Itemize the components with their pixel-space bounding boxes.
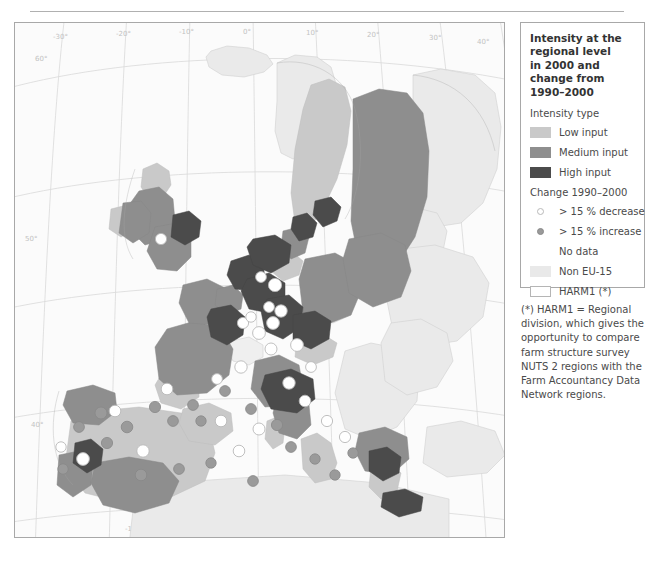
europe-map[interactable]: -30° -20° -10° 0° 10° 20° 30° 40° 60° 50…: [15, 23, 504, 537]
svg-text:60°: 60°: [35, 55, 47, 63]
legend-item-decrease: > 15 % decrease: [530, 203, 636, 220]
increase-marker-icon: [537, 228, 544, 235]
legend-title: Intensity at the regional level in 2000 …: [530, 32, 636, 99]
increase-label: > 15 % increase: [559, 226, 641, 237]
legend-item-medium-input: Medium input: [530, 144, 636, 161]
decrease-marker-cell: [530, 208, 551, 215]
svg-text:-10°: -10°: [179, 28, 194, 36]
svg-text:40°: 40°: [477, 38, 489, 46]
high-input-swatch: [530, 167, 551, 178]
svg-text:-30°: -30°: [53, 33, 68, 41]
header-divider: [30, 11, 624, 12]
svg-text:50°: 50°: [25, 235, 37, 243]
svg-text:40°: 40°: [31, 421, 43, 429]
harm1-label: HARM1 (*): [559, 286, 611, 297]
legend-item-high-input: High input: [530, 164, 636, 181]
non-eu15-label: Non EU-15: [559, 266, 612, 277]
legend-item-harm1: HARM1 (*): [530, 283, 636, 300]
non-eu15-swatch: [530, 266, 551, 277]
legend-item-low-input: Low input: [530, 124, 636, 141]
decrease-label: > 15 % decrease: [559, 206, 645, 217]
increase-marker-cell: [530, 228, 551, 235]
legend-item-no-data: No data: [530, 243, 636, 260]
map-panel[interactable]: -30° -20° -10° 0° 10° 20° 30° 40° 60° 50…: [14, 22, 505, 538]
decrease-marker-icon: [537, 208, 544, 215]
harm1-swatch: [530, 286, 551, 297]
no-data-swatch: [530, 246, 551, 257]
legend-panel: Intensity at the regional level in 2000 …: [520, 22, 645, 288]
high-input-label: High input: [559, 167, 611, 178]
change-heading: Change 1990–2000: [530, 187, 636, 198]
low-input-swatch: [530, 127, 551, 138]
medium-input-swatch: [530, 147, 551, 158]
svg-text:-20°: -20°: [116, 30, 131, 38]
legend-item-non-eu15: Non EU-15: [530, 263, 636, 280]
svg-text:30°: 30°: [429, 34, 441, 42]
no-data-label: No data: [559, 246, 598, 257]
intensity-type-heading: Intensity type: [530, 108, 636, 119]
medium-input-label: Medium input: [559, 147, 628, 158]
svg-text:20°: 20°: [367, 31, 379, 39]
legend-item-increase: > 15 % increase: [530, 223, 636, 240]
svg-text:10°: 10°: [306, 29, 318, 37]
harm1-footnote: (*) HARM1 = Regional division, which giv…: [521, 303, 651, 402]
low-input-label: Low input: [559, 127, 608, 138]
svg-text:0°: 0°: [243, 28, 251, 36]
